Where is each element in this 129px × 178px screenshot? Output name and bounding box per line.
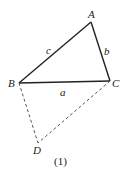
triangle-diagram: A B C D c b a (1)	[0, 0, 129, 178]
vertex-label-d: D	[32, 144, 41, 156]
vertex-label-a: A	[87, 8, 95, 20]
dashed-cd	[38, 81, 110, 143]
side-c	[19, 22, 91, 83]
dashed-bd	[19, 83, 38, 143]
vertex-label-b: B	[8, 77, 15, 89]
side-label-c: c	[46, 44, 51, 56]
figure-caption: (1)	[54, 155, 67, 168]
side-label-b: b	[104, 45, 110, 57]
vertex-label-c: C	[112, 77, 120, 89]
side-a	[19, 81, 110, 83]
side-label-a: a	[60, 86, 66, 98]
